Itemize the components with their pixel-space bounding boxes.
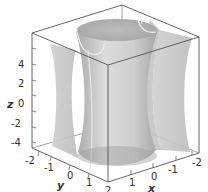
x-axis-label: x xyxy=(147,182,156,192)
y-tick-0: 0 xyxy=(67,170,73,181)
y-tick-2: 2 xyxy=(105,185,111,192)
hyperboloid-tube xyxy=(76,14,158,172)
z-tick-neg2: -2 xyxy=(11,118,21,129)
x-tick-neg1: -1 xyxy=(168,164,178,175)
z-tick-4: 4 xyxy=(18,59,24,70)
y-tick-neg2: -2 xyxy=(25,155,35,166)
z-tick-0: 0 xyxy=(18,98,24,109)
z-axis xyxy=(32,48,36,143)
y-tick-neg1: -1 xyxy=(44,162,54,173)
y-axis-label: y xyxy=(57,179,65,192)
y-tick-1: 1 xyxy=(86,177,92,188)
x-tick-0: 0 xyxy=(151,171,157,182)
z-axis-label: z xyxy=(6,98,14,111)
surface-plot-3d: 4 2 0 -2 -4 z -2 -1 0 1 2 y 1 0 -1 -2 x xyxy=(0,0,208,192)
x-tick-neg2: -2 xyxy=(192,157,202,168)
z-tick-2: 2 xyxy=(18,78,24,89)
x-tick-1: 1 xyxy=(129,177,135,188)
z-tick-neg4: -4 xyxy=(11,137,21,148)
